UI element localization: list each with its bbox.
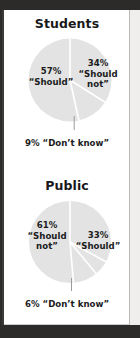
page-root: Students 57% “Should” 34% “Should not” 9…: [0, 0, 140, 338]
page-bottom-band: [0, 325, 140, 338]
slice-label-should: 33% “Should”: [74, 230, 122, 251]
slice-label-should-not: 34% “Should not”: [76, 58, 120, 90]
slice-label-should: 57% “Should”: [24, 66, 78, 87]
chart-title-students: Students: [0, 16, 134, 31]
callout-label-dont-know: 6% “Don’t know”: [0, 299, 134, 310]
chart-title-public: Public: [0, 178, 134, 193]
slice-label-should-not: 61% “Should not”: [21, 220, 73, 252]
callout-label-dont-know: 9% “Don’t know”: [0, 138, 134, 149]
page-top-band: [0, 0, 140, 10]
